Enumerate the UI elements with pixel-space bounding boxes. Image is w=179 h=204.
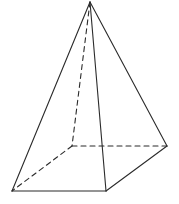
edge-base_front_right-base_back_right — [106, 146, 167, 191]
pyramid-diagram — [0, 0, 179, 204]
visible-edges — [12, 2, 167, 191]
edge-apex-base_back_right — [90, 2, 167, 146]
edge-apex-base_front_right — [90, 2, 106, 191]
